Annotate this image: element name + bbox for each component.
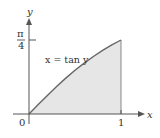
curve-label: x = tan y — [45, 54, 89, 65]
x-axis-arrow-icon — [138, 111, 145, 117]
shaded-area — [29, 40, 121, 114]
x-tick-label-1: 1 — [118, 117, 124, 128]
tan-area-plot: y x 0 1 π 4 x = tan y — [0, 0, 160, 138]
origin-label: 0 — [19, 117, 25, 128]
y-tick-label-numerator: π — [17, 28, 24, 39]
y-axis-label: y — [26, 6, 33, 17]
y-axis-arrow-icon — [26, 18, 32, 25]
x-axis-label: x — [147, 109, 153, 120]
y-tick-label-denominator: 4 — [18, 40, 24, 51]
